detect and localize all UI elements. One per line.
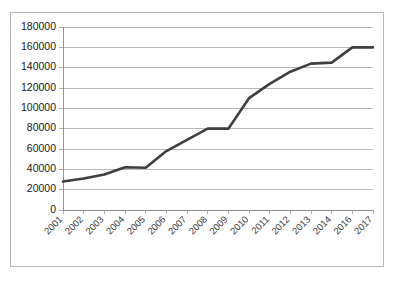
x-axis-tick-label: 2012 [269, 214, 292, 237]
x-axis-tick-label: 2014 [310, 214, 333, 237]
x-axis-tick-label: 2002 [62, 214, 85, 237]
y-axis-tick-label: 60000 [27, 142, 56, 154]
y-axis-tick-label: 0 [50, 203, 56, 215]
x-axis-tick-label: 2016 [331, 214, 354, 237]
x-axis-tick-label: 2013 [290, 214, 313, 237]
x-axis-tick-label: 2003 [83, 214, 106, 237]
x-axis-tick-label: 2005 [124, 214, 147, 237]
y-axis-tick-label: 40000 [27, 162, 56, 174]
x-axis-tick-label: 2017 [352, 214, 375, 237]
x-axis-tick-label: 2008 [186, 214, 209, 237]
y-axis-tick-label: 120000 [21, 81, 56, 93]
x-axis-tick-label: 2007 [166, 214, 189, 237]
y-axis-tick-label: 20000 [27, 182, 56, 194]
chart-frame: 0200004000060000800001000001200001400001… [10, 12, 384, 267]
y-axis-tick-label: 100000 [21, 101, 56, 113]
x-axis-tick-label: 2001 [42, 214, 65, 237]
y-axis-tick-label: 160000 [21, 40, 56, 52]
x-axis-tick-label: 2004 [104, 214, 127, 237]
x-axis-tick-label: 2011 [249, 214, 271, 236]
y-axis-tick-label: 80000 [27, 121, 56, 133]
chart-plot-area: 0200004000060000800001000001200001400001… [11, 13, 385, 268]
line-chart: 0200004000060000800001000001200001400001… [11, 13, 385, 268]
x-axis-tick-label: 2006 [145, 214, 168, 237]
y-axis-tick-label: 140000 [21, 60, 56, 72]
x-axis-tick-label: 2010 [228, 214, 251, 237]
x-axis-tick-label: 2009 [207, 214, 230, 237]
y-axis-tick-label: 180000 [21, 20, 56, 32]
